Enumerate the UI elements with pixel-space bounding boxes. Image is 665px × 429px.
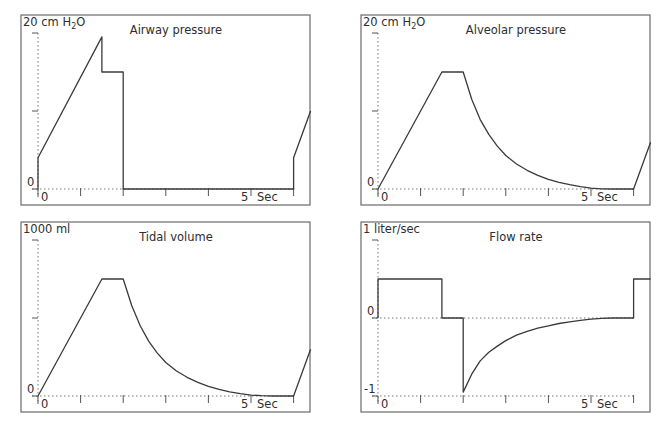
y-axis-label: 1 liter/sec [363,222,420,236]
chart-title: Alveolar pressure [466,23,566,37]
y-axis-label: 20 cm H2O [363,15,425,31]
y-axis-label-tail: O [76,15,85,29]
y-axis-label-main: 20 cm H [363,15,411,29]
y-tick-label: 0 [367,304,374,318]
x-tick-label: 0 [41,397,48,411]
x-axis-label: Sec [257,397,278,411]
chart-panel-airway: 05Sec020 cm H2OAirway pressure [21,15,311,205]
y-tick-label: 0 [27,175,34,189]
y-axis-label-tail: O [416,15,425,29]
ventilation-charts: 05Sec020 cm H2OAirway pressure05Sec020 c… [0,0,665,429]
y-axis-label-main: 20 cm H [23,15,71,29]
y-tick-label: 0 [27,382,34,396]
x-axis-label: Sec [257,190,278,204]
series-line-airway [38,37,311,189]
chart-panel-tidal: 05Sec01000 mlTidal volume [21,222,311,412]
plot-frame [361,222,650,412]
series-line-alveolar [378,72,651,189]
x-tick-label: 5 [241,397,248,411]
x-tick-label: 0 [381,190,388,204]
y-tick-label: -1 [364,382,375,396]
x-tick-label: 0 [41,190,48,204]
y-axis-label: 20 cm H2O [23,15,85,31]
x-tick-label: 5 [581,397,588,411]
chart-panel-alveolar: 05Sec020 cm H2OAlveolar pressure [361,15,651,205]
chart-panel-flow: 05Sec0-11 liter/secFlow rate [361,222,651,412]
plot-frame [361,15,650,205]
y-axis-label: 1000 ml [23,222,70,236]
series-line-tidal [38,279,311,396]
x-tick-label: 5 [581,190,588,204]
x-tick-label: 0 [381,397,388,411]
x-axis-label: Sec [597,190,618,204]
plot-frame [21,15,310,205]
y-tick-label: 0 [367,175,374,189]
x-axis-label: Sec [597,397,618,411]
chart-title: Flow rate [489,230,542,244]
series-line-flow [378,279,651,392]
chart-title: Tidal volume [138,230,213,244]
x-tick-label: 5 [241,190,248,204]
plot-frame [21,222,310,412]
chart-title: Airway pressure [130,23,222,37]
